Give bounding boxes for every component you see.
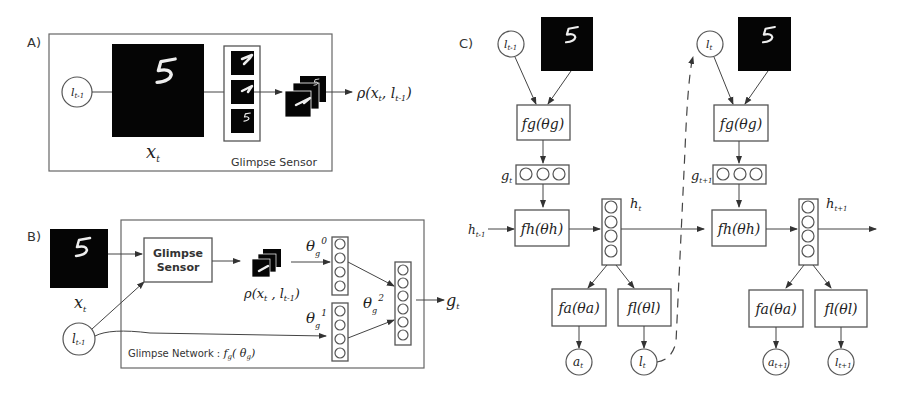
time-step-t: lt-1 fg(θg) gt ht-1 fh(θh) ht f [468,17,704,375]
svg-text:fh(θh): fh(θh) [520,221,564,237]
arrow [92,282,144,329]
svg-text:fl(θl): fl(θl) [823,301,857,317]
svg-text:fa(θa): fa(θa) [557,300,599,316]
glimpse-sensor-box [144,238,212,282]
panel-a-label: A) [27,35,41,50]
svg-text:Sensor: Sensor [157,261,200,274]
arrow [616,265,634,288]
input-image-xt [112,44,204,137]
arrow [786,265,804,288]
theta-g0-label: θg0 [306,236,327,258]
g-label: gt+1 [691,168,712,185]
glimpse-sensor-title: Glimpse Sensor [231,156,318,169]
arrow [548,71,571,104]
svg-text:fg(θg): fg(θg) [521,116,564,132]
svg-text:fg(θg): fg(θg) [719,116,762,132]
time-step-t-plus-1: lt fg(θg) gt+1 fh(θh) ht+1 fa(θa) [691,17,876,375]
stacked-glimpses [285,76,326,117]
panel-a: A) lt-1 xt ρ(xt, lt-1) Glimpse Sensor [27,34,412,171]
glimpse-sensor-box-label: Glimpse [153,247,203,260]
arrow [95,331,326,336]
svg-text:fl(θl): fl(θl) [626,300,660,316]
panel-b: B) xt lt-1 Glimpse Sensor ρ(xt , lt-1) θ… [27,220,460,368]
arrow [745,71,768,104]
svg-text:fa(θa): fa(θa) [754,301,796,317]
glimpse-label: ρ(xt , lt-1) [243,286,300,303]
theta-g1-label: θg1 [306,308,327,330]
input-image [738,17,791,71]
arrow [588,265,607,288]
panel-c-label: C) [459,36,473,51]
glimpse-output-label: ρ(xt, lt-1) [356,85,412,103]
arrow [348,262,394,286]
svg-text:fh(θh): fh(θh) [717,221,761,237]
arrow [714,57,733,104]
input-image [541,17,593,71]
glimpse-network-title: Glimpse Network : fg( θg) [128,347,255,361]
h-label: ht [630,196,641,213]
arrow [813,265,831,288]
arrow [515,57,536,104]
g-label: gt [501,168,512,185]
panel-b-label: B) [27,229,41,244]
arrow [348,320,394,338]
input-image-xt [50,229,108,288]
stacked-glimpses [252,249,281,277]
ram-architecture-figure: A) lt-1 xt ρ(xt, lt-1) Glimpse Sensor [0,0,902,397]
h-label: ht+1 [826,196,848,213]
theta-g2-label: θg2 [363,293,384,315]
h-prev-label: ht-1 [468,223,485,239]
panel-c: C) lt-1 fg(θg) gt ht-1 fh(θh) ht [459,17,876,375]
image-label-xt: xt [74,293,87,314]
glimpse-feature-output: gt [446,291,460,311]
image-label-xt: xt [146,141,160,164]
